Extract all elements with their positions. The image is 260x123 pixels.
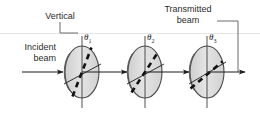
transmitted-beam-label-line2: beam [158,15,218,25]
theta-2-subscript: 2 [151,38,154,44]
theta-3-label: θ3 [209,32,216,44]
theta-1-label: θ1 [84,32,91,44]
polarizer-3 [189,36,245,108]
theta-3-subscript: 3 [213,38,216,44]
polarizer-2 [127,36,189,108]
incident-beam-label-line1: Incident [0,42,56,52]
transmitted-beam-label-line1: Transmitted [158,4,218,14]
polarization-figure: Vertical Incident beam Transmitted beam … [0,0,260,123]
vertical-leader-line [60,22,78,33]
incident-beam-label-line2: beam [0,53,56,63]
theta-1-subscript: 1 [88,38,91,44]
theta-2-label: θ2 [147,32,154,44]
vertical-label: Vertical [31,11,89,21]
polarizer-1 [64,36,127,108]
